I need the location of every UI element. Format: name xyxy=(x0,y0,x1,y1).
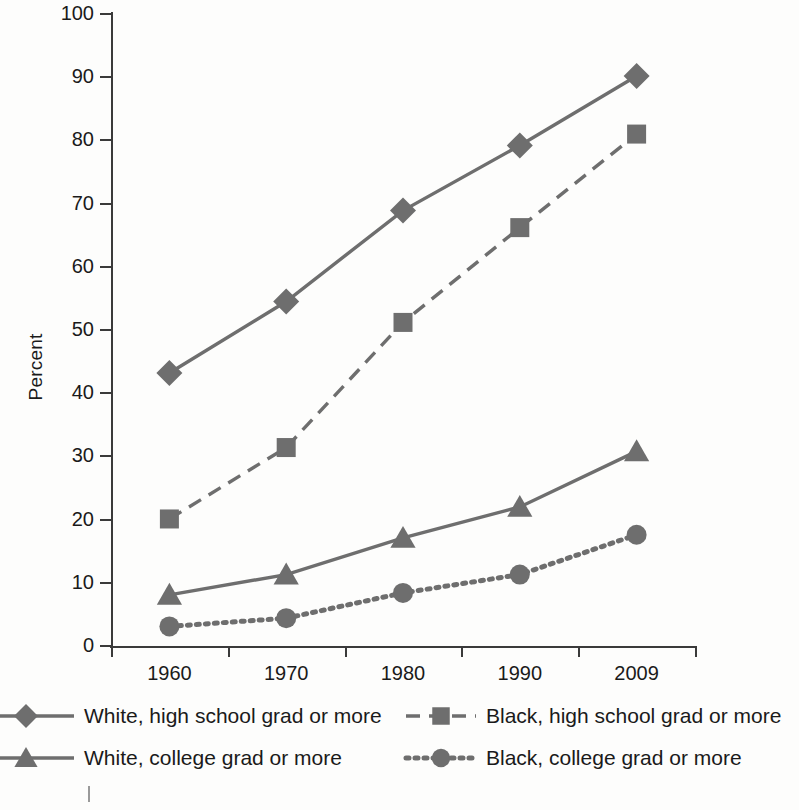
legend-marker-sample xyxy=(402,701,480,731)
x-axis-tick xyxy=(695,646,697,657)
series-line xyxy=(169,535,636,627)
legend-item[interactable]: Black, college grad or more xyxy=(402,739,742,777)
diamond-marker-icon xyxy=(156,360,182,386)
x-axis-tick-label: 1990 xyxy=(460,662,580,684)
y-axis-tick-label: 50 xyxy=(36,319,94,339)
y-axis-tick-label: 90 xyxy=(36,66,94,86)
square-marker-icon xyxy=(394,313,413,332)
x-axis-line xyxy=(110,646,696,648)
x-axis-tick-label: 2009 xyxy=(577,662,697,684)
series-layer xyxy=(111,14,695,646)
circle-marker-icon xyxy=(159,616,179,636)
circle-marker-icon xyxy=(510,565,530,585)
caption-rule xyxy=(88,786,90,802)
triangle-marker-icon xyxy=(507,495,532,517)
legend-item-label: White, high school grad or more xyxy=(84,704,382,728)
y-axis-tick-label: 10 xyxy=(36,572,94,592)
y-axis-tick xyxy=(100,13,111,15)
y-axis-tick xyxy=(100,455,111,457)
plot-area xyxy=(111,14,695,646)
circle-marker-icon xyxy=(393,583,413,603)
y-axis-tick xyxy=(100,329,111,331)
x-axis-tick xyxy=(345,646,347,657)
y-axis-tick xyxy=(100,266,111,268)
y-axis-tick-label: 40 xyxy=(36,382,94,402)
x-axis-tick xyxy=(111,646,113,657)
circle-marker-icon xyxy=(627,525,647,545)
legend-marker-sample xyxy=(0,743,78,773)
series-3 xyxy=(157,439,649,604)
series-1 xyxy=(156,63,649,386)
legend-item[interactable]: Black, high school grad or more xyxy=(402,697,781,735)
y-axis-tick xyxy=(100,203,111,205)
y-axis-tick-label: 20 xyxy=(36,509,94,529)
y-axis-tick-label: 80 xyxy=(36,129,94,149)
diamond-marker-icon xyxy=(624,63,650,89)
y-axis-tick xyxy=(100,76,111,78)
circle-marker-icon xyxy=(432,749,450,767)
legend-item-label: Black, college grad or more xyxy=(486,746,742,770)
diamond-marker-icon xyxy=(507,132,533,158)
circle-marker-icon xyxy=(276,608,296,628)
square-marker-icon xyxy=(432,707,449,724)
x-axis-tick-label: 1970 xyxy=(226,662,346,684)
x-axis-tick xyxy=(228,646,230,657)
square-marker-icon xyxy=(510,218,529,237)
x-axis-tick xyxy=(461,646,463,657)
x-axis-tick-label: 1980 xyxy=(343,662,463,684)
series-line xyxy=(169,451,636,594)
legend-item-label: Black, high school grad or more xyxy=(486,704,781,728)
square-marker-icon xyxy=(160,509,179,528)
y-axis-tick-label: 60 xyxy=(36,256,94,276)
y-axis-tick-label: 100 xyxy=(36,3,94,23)
legend-item[interactable]: White, high school grad or more xyxy=(0,697,382,735)
chart-legend: White, high school grad or moreBlack, hi… xyxy=(0,697,799,779)
legend-item-label: White, college grad or more xyxy=(84,746,342,770)
legend-marker-sample xyxy=(402,743,480,773)
y-axis-tick-label: 0 xyxy=(36,635,94,655)
square-marker-icon xyxy=(627,125,646,144)
square-marker-icon xyxy=(277,438,296,457)
legend-marker-sample xyxy=(0,701,78,731)
y-axis-tick xyxy=(100,392,111,394)
y-axis-tick xyxy=(100,519,111,521)
y-axis-tick xyxy=(100,582,111,584)
x-axis-tick xyxy=(578,646,580,657)
chart-figure: Percent 1009080706050403020100 196019701… xyxy=(0,0,799,810)
y-axis-tick-label: 70 xyxy=(36,193,94,213)
series-2 xyxy=(160,125,646,529)
diamond-marker-icon xyxy=(14,704,38,728)
x-axis-tick-label: 1960 xyxy=(109,662,229,684)
caption-sliver xyxy=(0,786,799,810)
y-axis-tick xyxy=(100,645,111,647)
y-axis-tick xyxy=(100,139,111,141)
legend-item[interactable]: White, college grad or more xyxy=(0,739,342,777)
triangle-marker-icon xyxy=(624,439,649,461)
y-axis-tick-label: 30 xyxy=(36,445,94,465)
